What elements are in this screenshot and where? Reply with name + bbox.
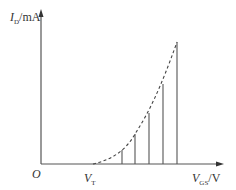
x-axis-arrow-icon [216, 162, 224, 167]
vertical-lines [122, 42, 177, 164]
transfer-characteristic-diagram: ID/mA O VT VGS/V [0, 0, 236, 190]
threshold-label: VT [84, 171, 96, 186]
diagram-graphics [0, 0, 236, 190]
x-axis-label: VGS/V [192, 171, 220, 186]
origin-label: O [32, 167, 41, 182]
y-axis-label: ID/mA [10, 10, 40, 25]
